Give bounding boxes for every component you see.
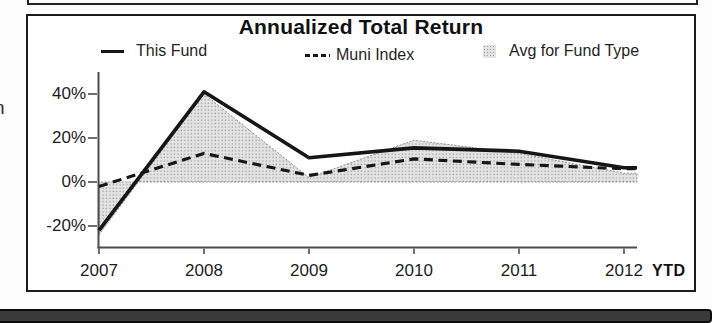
avg-fund-type-area [99,94,637,235]
lower-panel-top-edge [0,309,712,323]
